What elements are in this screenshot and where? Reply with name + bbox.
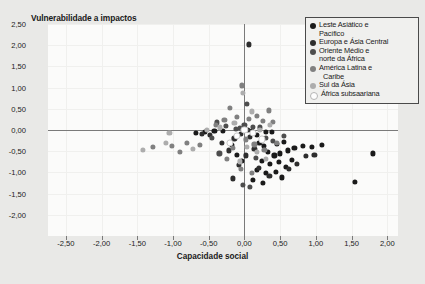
x-tick-label: -2,00 (93, 239, 110, 248)
y-tick-label: -1,50 (9, 189, 26, 198)
scatter-point (258, 136, 265, 143)
scatter-point (238, 159, 243, 164)
gridline-horizontal (48, 172, 398, 173)
scatter-point (246, 116, 251, 121)
scatter-point (230, 176, 235, 181)
legend-marker-icon (310, 66, 316, 72)
x-tick-mark (66, 236, 67, 240)
x-tick-mark (244, 236, 245, 240)
y-tick-label: 2,00 (11, 41, 26, 50)
scatter-point (253, 155, 258, 160)
scatter-point (353, 179, 358, 184)
x-tick-label: -1,50 (129, 239, 146, 248)
scatter-point (272, 153, 277, 158)
scatter-point (286, 166, 291, 171)
scatter-point (234, 132, 241, 139)
scatter-point (260, 118, 265, 123)
x-axis-title: Capacidade social (0, 252, 425, 261)
scatter-point (255, 149, 260, 154)
scatter-point (244, 101, 249, 106)
scatter-point (248, 184, 253, 189)
legend-marker-icon (310, 49, 316, 55)
gridline-horizontal (48, 194, 398, 195)
y-tick-label: -2,00 (9, 210, 26, 219)
scatter-point (258, 127, 263, 132)
legend-marker-icon (310, 83, 316, 89)
scatter-point (310, 144, 315, 149)
legend-label: África subsaariana (321, 90, 380, 99)
scatter-point (263, 156, 268, 161)
x-tick-mark (352, 236, 353, 240)
scatter-point (245, 144, 250, 149)
scatter-point (238, 166, 243, 171)
scatter-point (150, 144, 155, 149)
y-tick-label: 0,50 (11, 104, 26, 113)
scatter-point (178, 149, 183, 154)
y-tick-label: 1,50 (11, 62, 26, 71)
scatter-point (230, 145, 235, 150)
x-tick-label: -2,50 (57, 239, 74, 248)
scatter-point (370, 151, 375, 156)
y-tick-label: 1,00 (11, 83, 26, 92)
scatter-point (289, 157, 294, 162)
scatter-point (193, 130, 198, 135)
scatter-point (249, 171, 254, 176)
scatter-point (295, 161, 300, 166)
chart-stage: Vulnerabilidade a impactos 2,502,001,501… (0, 0, 425, 284)
scatter-point (167, 130, 172, 135)
gridline-horizontal (48, 151, 398, 152)
legend-marker-icon (310, 92, 318, 100)
x-tick-mark (209, 236, 210, 240)
scatter-point (199, 132, 204, 137)
legend-item: África subsaariana (309, 90, 415, 100)
scatter-point (225, 156, 230, 161)
scatter-point (243, 153, 248, 158)
legend-marker-icon (310, 23, 316, 29)
x-tick-mark (280, 236, 281, 240)
scatter-point (250, 177, 255, 182)
legend-item: América Latina eCaribe (309, 64, 415, 81)
scatter-point (278, 151, 283, 156)
x-tick-mark (387, 236, 388, 240)
scatter-point (198, 143, 203, 148)
scatter-point (249, 109, 254, 114)
scatter-point (281, 139, 286, 144)
scatter-point (266, 108, 271, 113)
legend-item: Leste Asiático ePacífico (309, 21, 415, 38)
x-tick-label: 2,00 (380, 239, 395, 248)
chart-legend: Leste Asiático ePacíficoEuropa e Ásia Ce… (305, 17, 419, 104)
y-tick-label: 0,00 (11, 126, 26, 135)
scatter-point (222, 117, 227, 122)
scatter-point (219, 140, 224, 145)
x-tick-label: 1,00 (308, 239, 323, 248)
scatter-point (255, 113, 260, 118)
gridline-horizontal (48, 109, 398, 110)
scatter-point (232, 121, 237, 126)
scatter-point (212, 129, 217, 134)
x-tick-label: 0,00 (237, 239, 252, 248)
x-tick-label: -0,50 (200, 239, 217, 248)
y-tick-label: -1,00 (9, 168, 26, 177)
scatter-point (210, 135, 215, 140)
scatter-point (217, 151, 222, 156)
scatter-point (243, 137, 248, 142)
scatter-point (319, 142, 324, 147)
scatter-point (260, 180, 265, 185)
scatter-point (300, 143, 305, 148)
scatter-point (303, 154, 308, 159)
legend-marker-icon (310, 40, 316, 46)
scatter-point (241, 126, 248, 133)
scatter-point (269, 130, 274, 135)
x-tick-mark (316, 236, 317, 240)
legend-item: Oriente Médio enorte da África (309, 47, 415, 64)
scatter-point (256, 166, 261, 171)
scatter-point (163, 140, 168, 145)
scatter-point (268, 122, 273, 127)
y-axis-title: Vulnerabilidade a impactos (31, 13, 137, 23)
scatter-point (185, 140, 190, 145)
y-tick-label: 2,50 (11, 20, 26, 29)
x-tick-mark (102, 236, 103, 240)
scatter-point (235, 152, 240, 157)
scatter-point (263, 129, 268, 134)
scatter-point (268, 161, 273, 166)
